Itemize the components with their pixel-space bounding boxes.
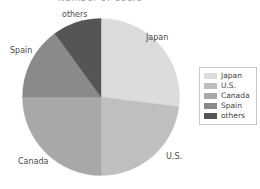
legend-swatch-icon: [204, 93, 217, 99]
legend-item-others[interactable]: others: [204, 111, 253, 121]
legend-item-label: others: [221, 111, 245, 121]
chart-title: Number of Users: [0, 0, 200, 1]
slice-label-us: U.S.: [166, 152, 182, 161]
legend-swatch-icon: [204, 103, 217, 109]
pie-slice-us: [101, 97, 179, 176]
legend-item-label: Canada: [221, 91, 250, 101]
slice-label-japan: Japan: [146, 33, 168, 42]
legend-item-japan[interactable]: Japan: [204, 71, 253, 81]
legend-swatch-icon: [204, 73, 217, 79]
pie-chart-figure: Number of Users Japan U.S. Canada Spain …: [0, 0, 260, 189]
pie-slice-japan: [101, 19, 179, 107]
slice-label-spain: Spain: [10, 46, 32, 55]
legend-swatch-icon: [204, 113, 217, 119]
legend-item-canada[interactable]: Canada: [204, 91, 253, 101]
legend-item-label: U.S.: [221, 81, 236, 91]
chart-legend: JapanU.S.CanadaSpainothers: [199, 67, 257, 125]
legend-swatch-icon: [204, 83, 217, 89]
legend-item-label: Japan: [221, 71, 242, 81]
legend-item-spain[interactable]: Spain: [204, 101, 253, 111]
slice-label-others: others: [62, 10, 87, 19]
slice-label-canada: Canada: [18, 157, 48, 166]
legend-item-label: Spain: [221, 101, 242, 111]
legend-item-us[interactable]: U.S.: [204, 81, 253, 91]
